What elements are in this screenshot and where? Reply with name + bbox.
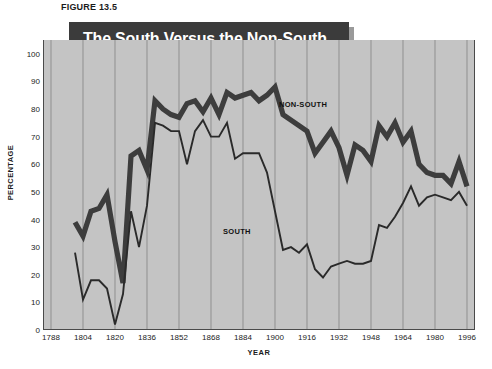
x-axis-title: YEAR: [43, 348, 475, 357]
y-tick-100: 100: [18, 50, 40, 59]
gridlines: [43, 40, 475, 330]
y-tick-10: 10: [18, 298, 40, 307]
y-tick-80: 80: [18, 105, 40, 114]
plot-area: NON-SOUTH SOUTH: [43, 40, 475, 330]
x-axis-tick-labels: 1788180418201836185218681884190019161932…: [43, 333, 475, 345]
y-tick-50: 50: [18, 188, 40, 197]
y-tick-40: 40: [18, 216, 40, 225]
y-tick-70: 70: [18, 133, 40, 142]
figure-container: FIGURE 13.5 The South Versus the Non-Sou…: [0, 0, 492, 369]
series-label-south: SOUTH: [223, 227, 251, 236]
y-tick-90: 90: [18, 77, 40, 86]
y-axis-title: PERCENTAGE: [6, 138, 15, 208]
y-tick-30: 30: [18, 243, 40, 252]
y-tick-60: 60: [18, 160, 40, 169]
y-tick-20: 20: [18, 271, 40, 280]
series-line-non-south: [75, 87, 467, 283]
series-line-south: [75, 120, 467, 324]
y-axis-tick-labels: 1009080706050403020100: [13, 40, 40, 330]
x-tick-1996: 1996: [447, 333, 487, 342]
chart-svg: [43, 40, 475, 330]
figure-number-label: FIGURE 13.5: [61, 2, 117, 12]
series-label-non-south: NON-SOUTH: [279, 100, 327, 109]
data-series-layer: [75, 87, 467, 325]
